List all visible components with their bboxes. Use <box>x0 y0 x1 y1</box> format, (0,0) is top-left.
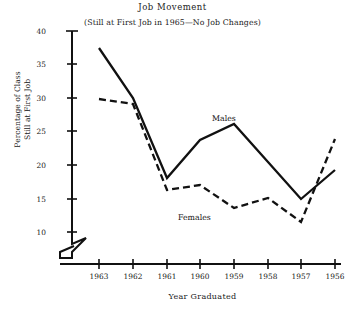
y-axis-break-zigzag <box>60 236 86 258</box>
chart-plot-area <box>0 0 345 311</box>
series-line-males <box>99 48 335 199</box>
chart-figure: Job Movement (Still at First Job in 1965… <box>0 0 345 311</box>
series-line-females <box>99 99 335 222</box>
y-axis <box>60 31 86 258</box>
x-axis <box>60 259 341 269</box>
